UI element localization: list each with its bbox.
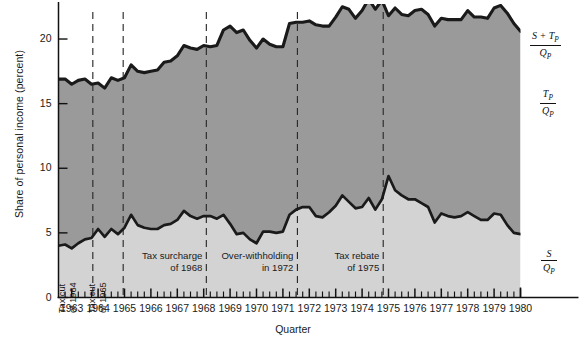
y-tick-5: 5: [26, 226, 52, 238]
annotation-5: Tax rebateof 1975: [261, 250, 379, 274]
x-tick-1980: 1980: [497, 302, 545, 314]
y-tick-10: 10: [26, 161, 52, 173]
legend-taxes-numerator: TP: [540, 88, 556, 104]
legend-saving: S QP: [541, 248, 557, 276]
annotation-2: Tax cutof 1965: [87, 282, 108, 313]
y-axis-title: Share of personal income (percent): [13, 39, 25, 229]
legend-total-numerator: S + TP: [530, 30, 561, 46]
legend-taxes: TP QP: [540, 88, 556, 119]
annotation-line2: of 1975: [261, 262, 379, 274]
chart-figure: Share of personal income (percent) Quart…: [0, 0, 586, 342]
annotation-1: Tax cutof 1964: [57, 282, 78, 313]
annotation-line1: Tax rebate: [261, 250, 379, 262]
annotation-line1: Tax cut: [57, 282, 68, 313]
legend-saving-numerator: S: [541, 248, 557, 261]
legend-saving-denominator: QP: [541, 261, 557, 276]
annotation-line2: of 1964: [67, 282, 78, 313]
legend-total-denominator: QP: [530, 46, 561, 61]
x-axis-title: Quarter: [0, 323, 586, 335]
legend-taxes-denominator: QP: [540, 104, 556, 119]
y-tick-20: 20: [26, 32, 52, 44]
legend-total: S + TP QP: [530, 30, 561, 61]
y-tick-15: 15: [26, 97, 52, 109]
annotation-line1: Tax cut: [87, 282, 98, 313]
annotation-line2: of 1965: [98, 282, 109, 313]
